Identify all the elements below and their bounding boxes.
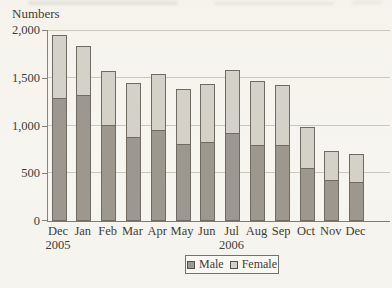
bar-jan-1 xyxy=(76,46,91,221)
bar-nov-11 xyxy=(324,151,339,221)
x-year-label-2005: 2005 xyxy=(38,238,78,252)
legend-female-swatch xyxy=(230,261,238,269)
bar-oct-10 xyxy=(300,127,315,221)
legend-female-label: Female xyxy=(242,257,277,272)
bar-segment-male xyxy=(349,182,364,221)
y-tick-mark xyxy=(42,173,48,174)
bar-jul-7 xyxy=(225,70,240,221)
y-tick-mark xyxy=(42,30,48,31)
bar-segment-male xyxy=(275,145,290,221)
bar-segment-female xyxy=(300,127,315,168)
bar-segment-female xyxy=(52,35,67,99)
bar-mar-3 xyxy=(126,83,141,221)
bar-segment-male xyxy=(324,180,339,221)
legend-item-female: Female xyxy=(230,257,277,272)
x-year-label-2006: 2006 xyxy=(212,238,252,252)
bar-segment-female xyxy=(176,89,191,144)
bar-dec-0 xyxy=(52,35,67,221)
bar-aug-8 xyxy=(250,81,265,221)
bar-segment-female xyxy=(151,74,166,131)
bar-segment-male xyxy=(126,137,141,221)
legend-male-label: Male xyxy=(199,257,224,272)
bar-segment-female xyxy=(76,46,91,96)
gridline-1000 xyxy=(48,125,390,126)
bar-dec-12 xyxy=(349,154,364,221)
y-tick-label-1500: 1,500 xyxy=(0,71,40,85)
bar-sep-9 xyxy=(275,85,290,221)
y-tick-label-0: 0 xyxy=(0,214,40,228)
scan-artifact xyxy=(352,1,382,4)
y-tick-label-2000: 2,000 xyxy=(0,23,40,37)
bar-segment-female xyxy=(225,70,240,134)
bar-apr-4 xyxy=(151,74,166,221)
bar-segment-female xyxy=(126,83,141,138)
y-tick-label-1000: 1,000 xyxy=(0,119,40,133)
bar-segment-male xyxy=(176,144,191,221)
bar-may-5 xyxy=(176,89,191,221)
bar-segment-male xyxy=(151,130,166,221)
bar-segment-male xyxy=(101,125,116,221)
gridline-2000 xyxy=(48,30,390,31)
bar-segment-male xyxy=(76,95,91,221)
stacked-bar-chart-figure: Numbers 05001,0001,5002,000 DecJanFebMar… xyxy=(0,0,392,288)
y-tick-label-500: 500 xyxy=(0,166,40,180)
legend-item-male: Male xyxy=(187,257,224,272)
bar-segment-male xyxy=(300,168,315,221)
scan-artifact xyxy=(214,2,334,5)
bar-segment-female xyxy=(275,85,290,145)
x-label-dec-12: Dec xyxy=(338,224,374,238)
bar-segment-female xyxy=(101,71,116,125)
bar-jun-6 xyxy=(200,84,215,221)
bar-feb-2 xyxy=(101,71,116,221)
legend-box: Male Female xyxy=(185,255,279,274)
bar-segment-male xyxy=(225,133,240,221)
scan-artifact xyxy=(28,1,178,5)
y-axis-title: Numbers xyxy=(12,7,60,21)
plot-area xyxy=(47,30,390,222)
legend-male-swatch xyxy=(187,261,195,269)
bar-segment-male xyxy=(200,142,215,221)
bar-segment-male xyxy=(250,145,265,221)
bar-segment-female xyxy=(250,81,265,146)
bar-segment-male xyxy=(52,98,67,221)
y-tick-mark xyxy=(42,220,48,221)
gridline-1500 xyxy=(48,77,390,78)
bar-segment-female xyxy=(324,151,339,181)
y-tick-mark xyxy=(42,126,48,127)
bar-segment-female xyxy=(200,84,215,142)
y-tick-mark xyxy=(42,78,48,79)
bar-segment-female xyxy=(349,154,364,183)
